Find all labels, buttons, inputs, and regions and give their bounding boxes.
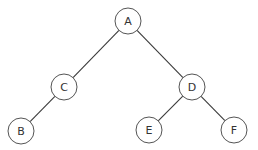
node-label: D: [188, 81, 196, 94]
node-C: C: [51, 74, 77, 100]
edge-A-D: [137, 30, 183, 77]
node-B: B: [8, 118, 34, 144]
node-D: D: [179, 74, 205, 100]
node-label: B: [17, 125, 25, 138]
nodes: ACDBEF: [8, 8, 247, 144]
node-label: E: [146, 124, 153, 137]
edge-D-F: [201, 96, 225, 120]
node-A: A: [115, 8, 141, 34]
edge-D-E: [158, 96, 183, 121]
node-label: F: [231, 124, 237, 137]
node-F: F: [221, 117, 247, 143]
node-label: A: [124, 15, 132, 28]
tree-diagram: ACDBEF: [0, 0, 258, 150]
node-E: E: [136, 117, 162, 143]
edge-C-B: [30, 96, 55, 121]
node-label: C: [60, 81, 68, 94]
edge-A-C: [73, 30, 119, 77]
